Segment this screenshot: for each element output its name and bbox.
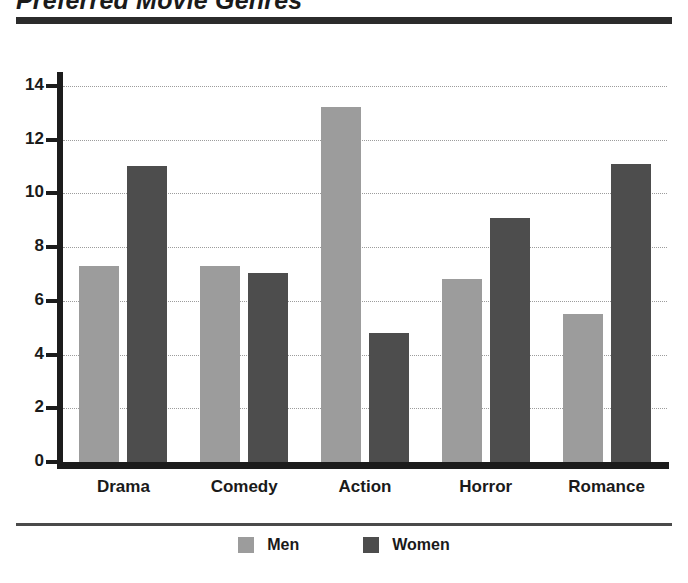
y-tick-label: 6 xyxy=(4,290,44,310)
bar-romance-women xyxy=(611,164,651,462)
y-tick-label-wrap: 4 xyxy=(0,344,44,364)
title-divider xyxy=(16,17,672,24)
y-tick-label-wrap: 10 xyxy=(0,182,44,202)
legend-label-men: Men xyxy=(267,536,299,554)
chart-title: Preferred Movie Genres xyxy=(16,0,302,15)
y-tick-label: 12 xyxy=(4,129,44,149)
bar-comedy-men xyxy=(200,266,240,462)
bar-horror-women xyxy=(490,218,530,462)
y-tick-mark xyxy=(46,460,58,464)
x-category-label-romance: Romance xyxy=(547,477,667,497)
y-tick-mark xyxy=(46,406,58,410)
chart-page: Preferred Movie Genres 02468101214 Drama… xyxy=(0,0,688,583)
bar-romance-men xyxy=(563,314,603,462)
y-tick-label: 4 xyxy=(4,344,44,364)
legend-item-women: Women xyxy=(363,536,449,554)
x-category-label-horror: Horror xyxy=(426,477,546,497)
y-tick-label: 8 xyxy=(4,236,44,256)
y-tick-mark xyxy=(46,353,58,357)
y-tick-label: 0 xyxy=(4,451,44,471)
y-tick-label-wrap: 14 xyxy=(0,75,44,95)
bar-drama-men xyxy=(79,266,119,462)
y-tick-label-wrap: 0 xyxy=(0,451,44,471)
bar-comedy-women xyxy=(248,273,288,462)
chart-legend: MenWomen xyxy=(0,536,688,554)
x-category-label-action: Action xyxy=(305,477,425,497)
x-category-label-comedy: Comedy xyxy=(184,477,304,497)
legend-label-women: Women xyxy=(392,536,449,554)
legend-swatch-men xyxy=(238,537,254,553)
x-axis-line xyxy=(57,462,669,469)
bar-horror-men xyxy=(442,279,482,462)
legend-item-men: Men xyxy=(238,536,299,554)
y-tick-label-wrap: 12 xyxy=(0,129,44,149)
y-tick-mark xyxy=(46,84,58,88)
legend-swatch-women xyxy=(363,537,379,553)
legend-divider xyxy=(16,523,672,526)
y-tick-label-wrap: 2 xyxy=(0,397,44,417)
y-tick-mark xyxy=(46,138,58,142)
y-tick-label: 14 xyxy=(4,75,44,95)
x-category-label-drama: Drama xyxy=(63,477,183,497)
bar-action-men xyxy=(321,107,361,462)
y-tick-label: 2 xyxy=(4,397,44,417)
y-tick-label: 10 xyxy=(4,182,44,202)
y-tick-mark xyxy=(46,245,58,249)
bars-layer xyxy=(63,74,667,462)
bar-action-women xyxy=(369,333,409,462)
y-tick-label-wrap: 8 xyxy=(0,236,44,256)
y-tick-mark xyxy=(46,191,58,195)
bar-drama-women xyxy=(127,166,167,462)
y-tick-label-wrap: 6 xyxy=(0,290,44,310)
y-tick-mark xyxy=(46,299,58,303)
